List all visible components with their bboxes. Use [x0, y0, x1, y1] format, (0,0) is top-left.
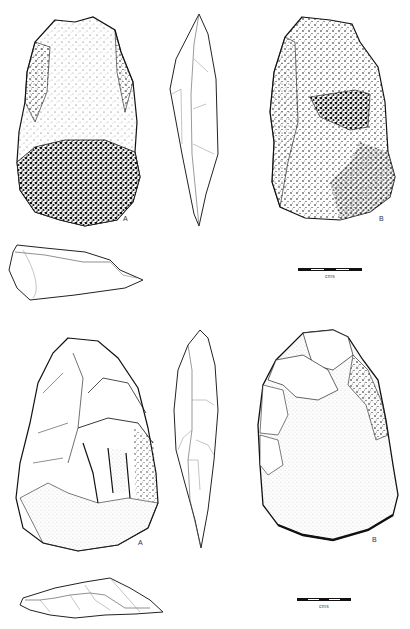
artifact-2-lateral-profile: [170, 330, 230, 550]
artifact-1-lateral-profile: [166, 14, 226, 229]
view-label-1a: A: [123, 215, 128, 222]
view-label-2a: A: [138, 539, 143, 546]
scale-bar-2: cms: [297, 598, 351, 609]
artifact-1-face-a: [5, 12, 145, 227]
scale-label-2: cms: [297, 603, 351, 609]
scale-bar-1: cms: [298, 268, 362, 279]
artifact-2-face-b: [248, 325, 408, 550]
view-label-2b: B: [372, 536, 377, 543]
scale-label-1: cms: [298, 273, 362, 279]
artifact-2-plan-section: [15, 570, 165, 620]
view-label-1b: B: [379, 215, 384, 222]
artifact-1-plan-section: [5, 240, 145, 300]
artifact-1-face-b: [260, 12, 405, 227]
artifact-2-face-a: [8, 333, 158, 553]
